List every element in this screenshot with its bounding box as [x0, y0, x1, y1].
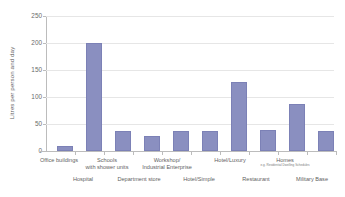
x-tickmark-1	[75, 151, 76, 155]
x-label-homes: Homes e.g. Residential Dwelling Schedule…	[254, 157, 316, 167]
x-tickmark-2	[104, 151, 105, 155]
plot-area	[46, 16, 334, 151]
y-tick-200: 200	[22, 40, 42, 46]
y-tick-0: 0	[22, 148, 42, 154]
x-label-schools-line2: with shower units	[86, 164, 129, 170]
x-axis-line	[40, 151, 337, 152]
bar-workshop	[173, 131, 189, 152]
bar-hotel-luxury	[231, 82, 247, 151]
gridline-250	[46, 16, 334, 17]
bar-homes	[289, 104, 305, 152]
x-tickmark-4	[162, 151, 163, 155]
bar-military-base	[318, 131, 334, 151]
y-axis-tick-labels: 250 200 150 100 50 0	[20, 16, 42, 151]
bar-schools	[115, 131, 131, 152]
x-tickmark-10	[336, 151, 337, 155]
x-label-workshop-line2: Industrial Enterprise	[142, 164, 192, 170]
x-label-schools-line1: Schools	[97, 157, 117, 163]
x-label-hotel-simple: Hotel/Simple	[169, 176, 229, 183]
x-label-restaurant: Restaurant	[226, 176, 286, 183]
bar-office-buildings	[57, 146, 73, 151]
x-tickmark-3	[133, 151, 134, 155]
x-label-workshop-line1: Workshop/	[154, 157, 181, 163]
y-tick-150: 150	[22, 67, 42, 73]
x-label-schools: Schools with shower units	[76, 157, 138, 170]
x-label-military-base: Military Base	[282, 176, 342, 183]
y-tick-250: 250	[22, 13, 42, 19]
x-tickmark-7	[249, 151, 250, 155]
y-tick-100: 100	[22, 94, 42, 100]
x-label-workshop: Workshop/ Industrial Enterprise	[132, 157, 202, 170]
bar-hospital	[86, 43, 102, 151]
y-tick-50: 50	[22, 121, 42, 127]
x-label-hotel-luxury: Hotel/Luxury	[200, 157, 260, 164]
x-tickmark-5	[191, 151, 192, 155]
bar-department-store	[144, 136, 160, 151]
x-tickmark-8	[278, 151, 279, 155]
y-axis-title: Litres per person and day	[8, 18, 18, 148]
x-label-homes-sub: e.g. Residential Dwelling Schedules	[254, 164, 316, 168]
x-label-department-store: Department store	[104, 176, 174, 183]
bar-chart: Litres per person and day 250 200 150 10…	[0, 0, 345, 197]
x-tickmark-6	[220, 151, 221, 155]
bar-hotel-simple	[202, 131, 218, 151]
bar-restaurant	[260, 130, 276, 151]
x-tickmark-9	[307, 151, 308, 155]
